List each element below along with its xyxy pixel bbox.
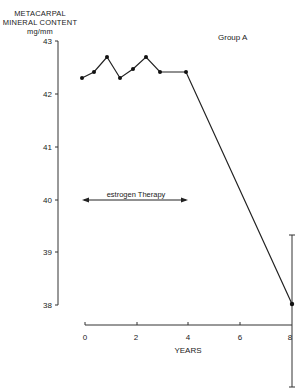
x-tick-4: 4 [186, 333, 191, 342]
x-axis-title: YEARS [174, 346, 201, 355]
y-tick-38: 38 [43, 301, 52, 310]
x-tick-6: 6 [238, 333, 243, 342]
error-bar [289, 235, 295, 387]
therapy-label: estrogen Therapy [107, 190, 166, 199]
arrow-right-icon [181, 198, 188, 203]
x-tick-2: 2 [134, 333, 139, 342]
y-tick-43: 43 [43, 37, 52, 46]
chart-canvas: 43 42 41 40 39 38 0 2 4 6 8 YEARS [0, 0, 308, 389]
y-tick-41: 41 [43, 143, 52, 152]
y-tick-42: 42 [43, 90, 52, 99]
y-tick-40: 40 [43, 196, 52, 205]
series-line-group-a [82, 57, 292, 304]
y-tick-39: 39 [43, 248, 52, 257]
data-points [80, 55, 294, 306]
x-tick-0: 0 [83, 333, 88, 342]
arrow-left-icon [82, 198, 89, 203]
y-ticks: 43 42 41 40 39 38 [43, 37, 58, 310]
therapy-annotation: estrogen Therapy [82, 190, 188, 203]
